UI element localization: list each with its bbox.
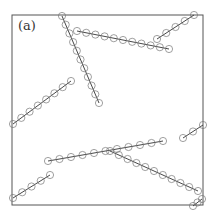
panel-label: (a) bbox=[18, 18, 36, 33]
chain-backbone bbox=[48, 141, 163, 161]
bead-circle bbox=[58, 12, 65, 19]
polymer-chain bbox=[9, 77, 74, 127]
polymer-chain bbox=[44, 137, 166, 164]
bead-circle bbox=[9, 194, 16, 201]
polymer-chain bbox=[73, 27, 172, 52]
chains-group bbox=[9, 11, 206, 209]
chain-backbone bbox=[157, 15, 194, 39]
chain-backbone bbox=[77, 31, 169, 49]
chain-backbone bbox=[13, 175, 50, 198]
polymer-chain bbox=[153, 11, 197, 42]
chain-backbone bbox=[13, 81, 71, 124]
polymer-chain bbox=[9, 171, 53, 201]
polymer-chain bbox=[58, 12, 102, 106]
bead-circle bbox=[9, 120, 16, 127]
polymer-chain bbox=[106, 147, 201, 194]
chain-backbone bbox=[110, 151, 198, 191]
chain-backbone bbox=[62, 16, 99, 103]
